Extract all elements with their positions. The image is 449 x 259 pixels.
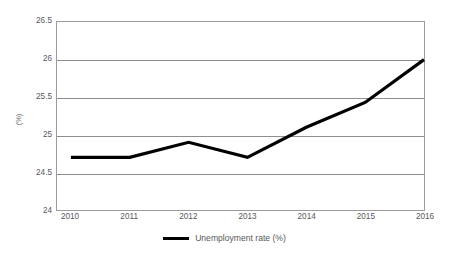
y-tick-label: 24 xyxy=(26,207,52,215)
y-tick-label: 24.5 xyxy=(26,169,52,177)
x-tick-label: 2012 xyxy=(168,213,208,221)
series-unemployment-rate xyxy=(57,22,424,210)
x-axis-tick-labels: 2010201120122013201420152016 xyxy=(56,213,425,229)
line-chart: (%) 2424.52525.52626.5 20102011201220132… xyxy=(0,0,449,259)
y-tick-label: 25.5 xyxy=(26,93,52,101)
legend-label: Unemployment rate (%) xyxy=(195,234,286,243)
x-tick-label: 2014 xyxy=(287,213,327,221)
x-tick-label: 2011 xyxy=(109,213,149,221)
plot-area xyxy=(56,21,425,211)
y-tick-label: 26.5 xyxy=(26,17,52,25)
x-tick-label: 2015 xyxy=(346,213,386,221)
x-tick-label: 2010 xyxy=(50,213,90,221)
x-tick-label: 2016 xyxy=(405,213,445,221)
chart-legend: Unemployment rate (%) xyxy=(0,234,449,243)
series-line xyxy=(71,60,424,158)
y-axis-tick-labels: 2424.52525.52626.5 xyxy=(24,0,52,259)
x-tick-label: 2013 xyxy=(228,213,268,221)
legend-line-swatch xyxy=(163,237,189,240)
y-tick-label: 25 xyxy=(26,131,52,139)
y-tick-label: 26 xyxy=(26,55,52,63)
y-axis-title-text: (%) xyxy=(14,113,23,125)
